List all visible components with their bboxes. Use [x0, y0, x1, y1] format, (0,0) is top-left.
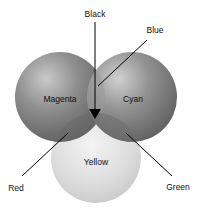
magenta-label: Magenta — [43, 94, 76, 104]
color-venn-diagram: Magenta Cyan Yellow Black Blue Red Green — [0, 0, 198, 211]
cyan-label: Cyan — [123, 94, 143, 104]
black-label: Black — [85, 9, 107, 19]
yellow-label: Yellow — [84, 157, 109, 167]
blue-label: Blue — [146, 25, 163, 35]
red-label: Red — [8, 183, 24, 193]
green-label: Green — [166, 182, 190, 192]
